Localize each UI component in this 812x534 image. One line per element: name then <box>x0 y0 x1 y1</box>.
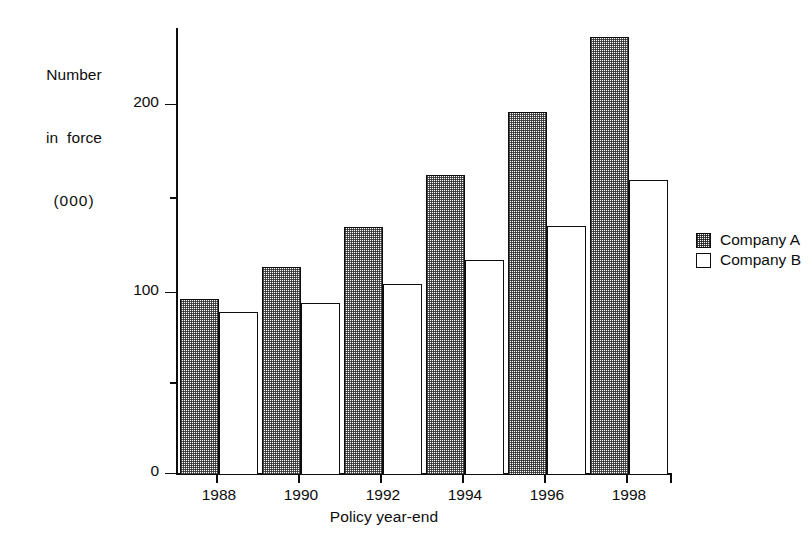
x-tick-1988 <box>216 474 218 483</box>
y-axis-title: Number in force (000) <box>10 22 138 253</box>
bar-company-b-1994 <box>465 260 504 475</box>
bar-company-a-1990 <box>262 267 301 474</box>
y-axis-title-line-3: (000) <box>10 190 138 211</box>
bar-company-a-1994 <box>426 175 465 475</box>
x-tick-label-1996: 1996 <box>507 486 587 504</box>
legend-item-company-b: Company B <box>696 252 801 268</box>
x-tick-1994 <box>462 474 464 483</box>
legend-label-company-a: Company A <box>720 232 800 248</box>
bar-company-b-1988 <box>219 312 258 474</box>
x-tick-1992 <box>380 474 382 483</box>
legend-item-company-a: Company A <box>696 232 800 248</box>
legend-swatch-company-b <box>696 253 711 268</box>
y-minor-tick-50 <box>170 382 177 384</box>
y-axis-title-line-1: Number <box>10 64 138 85</box>
y-tick-100 <box>165 292 177 294</box>
bar-company-a-1996 <box>508 112 547 475</box>
x-tick-1996 <box>544 474 546 483</box>
bar-company-b-1990 <box>301 303 340 475</box>
bar-company-a-1992 <box>344 227 383 475</box>
y-minor-tick-150 <box>170 197 177 199</box>
y-tick-label-0: 0 <box>95 462 159 480</box>
x-tick-1998 <box>626 474 628 483</box>
x-tick-label-1998: 1998 <box>589 486 669 504</box>
bar-company-b-1998 <box>629 180 668 475</box>
bar-chart: Number in force (000) 200 100 0 1988 199… <box>0 0 812 534</box>
legend-swatch-company-a <box>696 233 711 248</box>
y-axis-line <box>176 28 178 475</box>
x-tick-label-1988: 1988 <box>179 486 259 504</box>
x-tick-1990 <box>298 474 300 483</box>
y-tick-label-100: 100 <box>95 281 159 299</box>
x-axis-end-tick <box>670 474 672 483</box>
bar-company-b-1996 <box>547 226 586 475</box>
x-tick-label-1994: 1994 <box>425 486 505 504</box>
y-tick-label-200: 200 <box>95 93 159 111</box>
y-axis-title-line-2: in force <box>10 127 138 148</box>
y-tick-200 <box>165 104 177 106</box>
y-tick-0 <box>165 473 177 475</box>
x-tick-label-1990: 1990 <box>261 486 341 504</box>
x-axis-title: Policy year-end <box>0 506 790 527</box>
x-tick-label-1992: 1992 <box>343 486 423 504</box>
bar-company-b-1992 <box>383 284 422 475</box>
bar-company-a-1998 <box>590 37 629 475</box>
bar-company-a-1988 <box>180 299 219 475</box>
legend-label-company-b: Company B <box>720 252 801 268</box>
